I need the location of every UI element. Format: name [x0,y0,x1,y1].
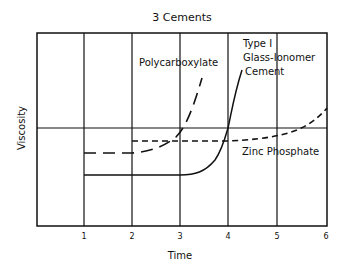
x-tick-1: 1 [81,232,86,241]
series-glass-ionomer [84,70,242,175]
y-axis-label: Viscosity [16,106,27,150]
x-tick-6: 6 [323,232,328,241]
x-tick-4: 4 [225,232,230,241]
x-tick-2: 2 [129,232,134,241]
x-axis-label: Time [167,250,192,261]
x-tick-3: 3 [177,232,182,241]
label-glass-ionomer: Glass-Ionomer [243,52,316,63]
label-zinc-phosphate: Zinc Phosphate [242,146,319,157]
chart-title: 3 Cements [152,11,212,24]
chart: 3 Cements Polycarboxylate Type I Glass-I… [0,0,344,269]
label-polycarboxylate: Polycarboxylate [139,57,218,68]
label-type-i: Type I [242,38,272,49]
x-tick-5: 5 [274,232,279,241]
label-cement: Cement [245,66,284,77]
